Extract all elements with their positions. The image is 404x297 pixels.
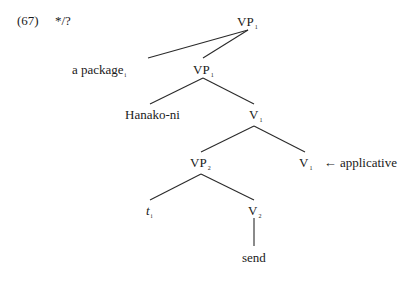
- arrow-left-icon: ←: [324, 155, 337, 170]
- node-hanako-ni: Hanako-ni: [125, 108, 180, 121]
- branch-v1bar-v1: [254, 126, 305, 152]
- node-send: send: [242, 251, 266, 264]
- node-vp1-bar: VP1: [193, 63, 214, 78]
- node-v1-head: V1 ← applicative: [299, 156, 397, 171]
- branch-vp2-v2: [201, 174, 254, 200]
- applicative-annotation: applicative: [340, 155, 397, 170]
- node-v2: V2: [248, 204, 261, 219]
- judgment-mark: */?: [55, 14, 71, 27]
- node-v1-bar: V1: [249, 108, 262, 123]
- node-vp2: VP2: [190, 156, 211, 171]
- example-number: (67): [17, 14, 39, 27]
- node-root-vp1: VP1: [237, 15, 258, 30]
- branch-vp2-trace: [150, 174, 201, 200]
- tree-branches: [0, 0, 404, 297]
- branch-vp1-v1bar: [203, 78, 254, 104]
- branch-root-vp1: [203, 30, 248, 58]
- node-trace: ti: [146, 204, 152, 219]
- branch-root-spec: [148, 30, 248, 58]
- branch-v1bar-vp2: [201, 126, 254, 152]
- node-a-package: a packagei: [72, 63, 126, 78]
- branch-vp1-goal: [150, 78, 203, 104]
